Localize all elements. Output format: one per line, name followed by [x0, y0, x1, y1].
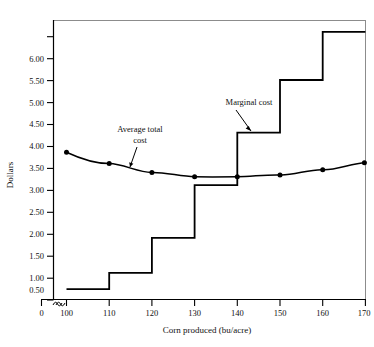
data-point [107, 161, 112, 166]
data-point [149, 170, 154, 175]
x-label-100: 100 [60, 308, 73, 318]
data-point [278, 173, 283, 178]
y-label-400: 4.00 [29, 141, 44, 151]
data-point [362, 160, 367, 165]
annotation-mc-label: Marginal cost [226, 97, 273, 107]
y-label-450: 4.50 [29, 119, 44, 129]
y-label-200: 2.00 [29, 229, 44, 239]
y-label-150: 1.50 [29, 251, 44, 261]
y-label-300: 3.00 [29, 185, 44, 195]
data-point [64, 150, 69, 155]
annotation-atc-line1: Average total [117, 124, 163, 134]
x-label-110: 110 [103, 308, 115, 318]
y-axis-title: Dollars [5, 161, 15, 188]
chart-svg: 6.00 5.50 5.00 4.50 4.00 3.50 3.00 2.50 … [0, 0, 374, 347]
chart-background [0, 0, 374, 347]
y-label-250: 2.50 [29, 207, 44, 217]
y-label-550: 5.50 [29, 76, 44, 86]
data-point [192, 174, 197, 179]
x-label-origin: 0 [39, 308, 43, 318]
y-label-600: 6.00 [29, 54, 44, 64]
x-label-150: 150 [274, 308, 287, 318]
annotation-atc-line2: cost [133, 135, 147, 145]
data-point [320, 167, 325, 172]
x-label-120: 120 [146, 308, 159, 318]
x-label-170: 170 [358, 308, 371, 318]
x-label-140: 140 [231, 308, 244, 318]
x-label-130: 130 [188, 308, 201, 318]
data-point [235, 174, 240, 179]
y-label-350: 3.50 [29, 163, 44, 173]
y-label-100: 1.00 [29, 273, 44, 283]
chart-figure: 6.00 5.50 5.00 4.50 4.00 3.50 3.00 2.50 … [0, 0, 374, 347]
y-label-050: 0.50 [29, 285, 44, 295]
x-label-160: 160 [316, 308, 329, 318]
x-axis-title: Corn produced (bu/acre) [163, 325, 251, 335]
y-label-500: 5.00 [29, 98, 44, 108]
